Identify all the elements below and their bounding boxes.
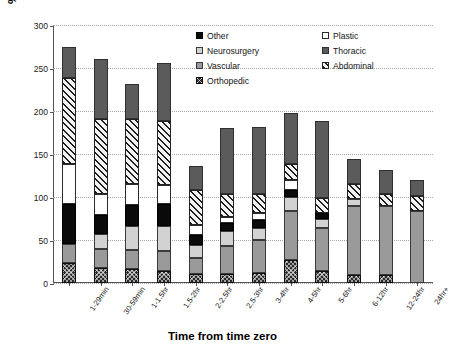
bar-segment-orthopedic (315, 271, 329, 283)
x-tick-mark (196, 283, 197, 286)
bar-stack (62, 47, 76, 283)
bar-segment-thoracic (157, 63, 171, 121)
bar-segment-other (284, 190, 298, 197)
bar-segment-plastic (284, 180, 298, 190)
bar-segment-abdominal (125, 119, 139, 184)
bar-segment-abdominal (379, 194, 393, 206)
legend-item-neurosurgery[interactable]: Neurosurgery (196, 46, 292, 56)
bar-segment-vascular (189, 258, 203, 273)
legend-item-thoracic[interactable]: Thoracic (322, 46, 432, 56)
bar-segment-neurosurgery (189, 245, 203, 258)
bar-segment-vascular (284, 211, 298, 260)
bar-stack (189, 166, 203, 283)
bar-stack (315, 121, 329, 283)
y-tick-label: 200 (34, 107, 48, 117)
legend-label: Other (207, 31, 229, 41)
bar-segment-vascular (315, 228, 329, 271)
bar-stack (125, 84, 139, 283)
bar-stack (220, 128, 234, 283)
y-tick-label: 250 (34, 64, 48, 74)
bar-segment-other (252, 220, 266, 228)
x-tick-mark (322, 283, 323, 286)
x-tick-mark (69, 283, 70, 286)
x-tick-mark (291, 283, 292, 286)
bar-segment-thoracic (347, 159, 361, 184)
legend-swatch-icon (196, 47, 203, 54)
bar-segment-neurosurgery (347, 199, 361, 206)
bar-segment-neurosurgery (125, 226, 139, 250)
y-tick-label: 150 (34, 150, 48, 160)
bar-segment-vascular (62, 244, 76, 263)
legend-item-plastic[interactable]: Plastic (322, 31, 432, 41)
x-tick-label: 2-2.5hr (213, 285, 234, 310)
gridline: 0 (53, 283, 433, 284)
bar-segment-orthopedic (62, 263, 76, 283)
bar-segment-neurosurgery (94, 234, 108, 249)
legend-item-other[interactable]: Other (196, 31, 292, 41)
bar-segment-neurosurgery (284, 197, 298, 211)
bar-segment-orthopedic (220, 274, 234, 283)
bar-segment-vascular (252, 240, 266, 273)
bar-segment-orthopedic (379, 275, 393, 283)
x-tick-mark (164, 283, 165, 286)
legend-swatch-icon (196, 62, 203, 69)
bar-segment-orthopedic (125, 269, 139, 283)
bar-segment-thoracic (252, 127, 266, 193)
bar-segment-abdominal (410, 196, 424, 211)
x-tick-label: 12-24hr (404, 285, 426, 312)
x-tick-mark (227, 283, 228, 286)
legend-item-vascular[interactable]: Vascular (196, 61, 292, 71)
x-tick-label: 3-4hr (273, 285, 291, 305)
bar-segment-plastic (189, 225, 203, 235)
bar-segment-vascular (347, 206, 361, 276)
y-tick-label: 300 (34, 21, 48, 31)
bar-segment-abdominal (252, 194, 266, 214)
legend-label: Vascular (207, 61, 240, 71)
x-axis-tick-labels: 1-29min30-59min1-1.5hr1.5-2hr2-2.5hr2.5-… (53, 285, 433, 330)
bar-segment-other (157, 204, 171, 226)
legend-item-orthopedic[interactable]: Orthopedic (196, 76, 292, 86)
bar-segment-neurosurgery (252, 228, 266, 240)
x-tick-label: 1.5-2hr (181, 285, 202, 310)
bar-segment-orthopedic (284, 260, 298, 283)
bar-segment-other (315, 213, 329, 220)
bar-segment-plastic (62, 164, 76, 204)
legend-label: Plastic (333, 31, 358, 41)
x-axis-title: Time from time zero (0, 330, 445, 342)
bar-segment-neurosurgery (315, 219, 329, 228)
bar-segment-thoracic (125, 84, 139, 119)
bar-segment-plastic (125, 184, 139, 205)
y-axis-title-wrap: % of operations beginning (4, 0, 26, 290)
y-tick-label: 100 (34, 193, 48, 203)
x-tick-label: 2.5-3hr (244, 285, 265, 310)
bar-segment-other (62, 204, 76, 244)
bar-segment-plastic (252, 213, 266, 220)
bar-segment-thoracic (284, 113, 298, 164)
chart-legend: OtherPlasticNeurosurgeryThoracicVascular… (196, 28, 436, 88)
bar-segment-vascular (379, 206, 393, 276)
bar-segment-abdominal (220, 194, 234, 216)
bar-segment-other (220, 223, 234, 231)
bar-stack (410, 180, 424, 283)
x-tick-label: 30-59min (121, 285, 147, 316)
bar-segment-abdominal (157, 121, 171, 185)
bar-segment-other (94, 215, 108, 234)
bar-segment-vascular (410, 211, 424, 283)
y-tick-label: 0 (43, 279, 48, 289)
x-tick-label: 1-29min (88, 285, 111, 313)
bar-segment-orthopedic (252, 273, 266, 283)
y-axis-title: % of operations beginning (6, 0, 18, 52)
x-tick-mark (417, 283, 418, 286)
bar-segment-thoracic (410, 180, 424, 196)
bar-segment-vascular (94, 249, 108, 267)
bar-segment-vascular (220, 246, 234, 274)
y-tick-label: 50 (39, 236, 48, 246)
x-tick-label: 4-5hr (305, 285, 323, 305)
bar-segment-abdominal (94, 119, 108, 195)
legend-item-abdominal[interactable]: Abdominal (322, 61, 432, 71)
legend-label: Abdominal (333, 61, 374, 71)
legend-label: Thoracic (333, 46, 366, 56)
bar-stack (252, 127, 266, 283)
bar-segment-other (125, 205, 139, 227)
